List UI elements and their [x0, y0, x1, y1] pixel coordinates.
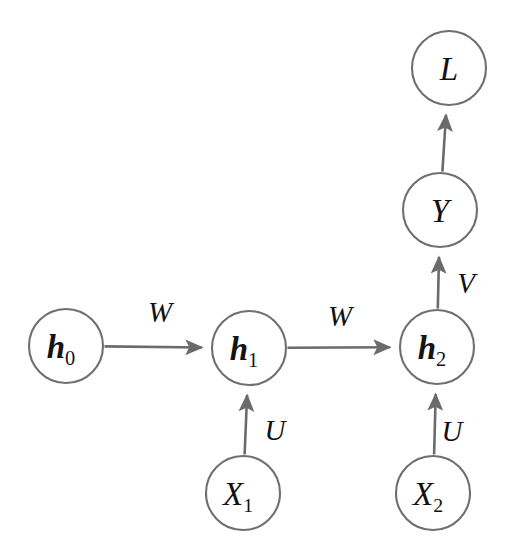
- node-x2[interactable]: X2: [396, 456, 470, 530]
- edge-h1-to-h2: [288, 347, 391, 348]
- edge-y-to-l: [442, 115, 446, 172]
- diagram-canvas: h0h1h2X1X2YL WWUUV: [0, 0, 505, 545]
- edge-label-w-h1-h2: W: [328, 300, 355, 332]
- node-y[interactable]: Y: [403, 173, 477, 247]
- edge-label-v-h2-y: V: [457, 267, 478, 299]
- node-h0-circle[interactable]: [29, 309, 103, 383]
- node-h1[interactable]: h1: [212, 311, 286, 385]
- node-x1[interactable]: X1: [206, 456, 280, 530]
- edge-group: [105, 115, 447, 455]
- node-l[interactable]: L: [412, 31, 486, 105]
- computational-graph: h0h1h2X1X2YL WWUUV: [0, 0, 505, 545]
- node-h0[interactable]: h0: [29, 309, 103, 383]
- node-l-label: L: [439, 51, 458, 87]
- edge-h0-to-h1: [105, 346, 203, 347]
- node-h2-circle[interactable]: [400, 310, 474, 384]
- node-h2[interactable]: h2: [400, 310, 474, 384]
- edge-x1-to-h1: [245, 395, 248, 455]
- node-h1-circle[interactable]: [212, 311, 286, 385]
- edge-h2-to-y: [438, 257, 439, 309]
- edge-label-u-x2-h2: U: [442, 415, 465, 447]
- node-group: h0h1h2X1X2YL: [29, 31, 486, 530]
- edge-label-u-x1-h1: U: [265, 414, 288, 446]
- edge-x2-to-h2: [434, 394, 436, 455]
- edge-label-w-h0-h1: W: [148, 296, 175, 328]
